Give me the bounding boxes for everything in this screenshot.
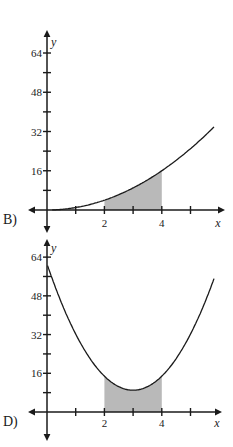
x-axis-right-arrow: [215, 409, 222, 416]
y-tick-label: 64: [31, 47, 43, 59]
y-axis-up-arrow: [44, 239, 51, 246]
graph-d-plot: 1632486424yx: [0, 236, 233, 447]
page: 1632486424yx 1632486424yx B) D): [0, 0, 233, 447]
x-axis-left-arrow: [28, 409, 35, 416]
y-tick-label: 16: [31, 367, 43, 379]
y-axis-label: y: [50, 35, 57, 49]
y-axis-label: y: [50, 241, 57, 255]
x-axis-left-arrow: [28, 207, 35, 214]
graph-d: 1632486424yx: [0, 236, 233, 447]
x-tick-label: 4: [159, 217, 165, 229]
function-curve: [48, 266, 214, 391]
y-tick-label: 48: [31, 86, 43, 98]
y-tick-label: 32: [31, 126, 42, 138]
graph-d-label: D): [3, 414, 18, 430]
x-tick-label: 2: [102, 417, 108, 429]
y-tick-label: 48: [31, 290, 43, 302]
x-axis-label: x: [214, 216, 221, 230]
y-axis-up-arrow: [44, 30, 51, 37]
x-tick-label: 4: [159, 417, 165, 429]
y-tick-label: 32: [31, 329, 42, 341]
graph-b: 1632486424yx: [0, 0, 233, 236]
x-tick-label: 2: [102, 217, 108, 229]
y-axis-down-arrow: [44, 226, 51, 233]
graph-b-label: B): [3, 212, 17, 228]
y-tick-label: 64: [31, 251, 43, 263]
y-tick-label: 16: [31, 165, 43, 177]
x-axis-right-arrow: [218, 207, 225, 214]
graph-b-plot: 1632486424yx: [0, 0, 233, 236]
shaded-region: [104, 376, 161, 412]
x-axis-label: x: [213, 416, 220, 430]
y-axis-down-arrow: [44, 434, 51, 441]
